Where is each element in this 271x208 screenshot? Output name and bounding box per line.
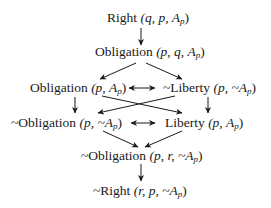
node-relation: ~Liberty [163,80,210,95]
node-obligation-pa: Obligation (p, Ap) [30,80,126,99]
node-args: (p, A [91,80,117,95]
node-not-obligation-pa: ~Obligation (p, ~Ap) [11,115,122,134]
arrow-obligation-to-obligation-pa [100,63,136,79]
node-close: ) [198,148,203,163]
node-close: ) [200,44,205,59]
node-close: ) [117,115,122,130]
node-args: (q, p, A [140,10,180,25]
node-relation: ~Obligation [11,115,76,130]
node-relation: ~Right [93,183,130,198]
node-relation: ~Obligation [81,148,146,163]
node-args: (p, r, ~A [149,148,193,163]
node-args: (p, ~A [213,80,247,95]
node-relation: Right [107,10,137,25]
arrow-obligation-to-not-liberty [146,63,182,79]
node-args: (p, q, A [156,44,196,59]
node-close: ) [184,10,189,25]
node-close: ) [239,115,244,130]
node-args: (p, A [208,115,234,130]
arrows-layer [0,0,271,208]
node-close: ) [122,80,127,95]
node-args: (r, p, ~A [134,183,178,198]
node-obligation-pq: Obligation (p, q, Ap) [95,44,205,63]
node-close: ) [182,183,187,198]
node-relation: Obligation [95,44,153,59]
node-not-liberty: ~Liberty (p, ~Ap) [163,80,256,99]
node-liberty: Liberty (p, Ap) [165,115,243,134]
node-relation: Obligation [30,80,88,95]
node-relation: Liberty [165,115,205,130]
node-right: Right (q, p, Ap) [107,10,189,29]
diagram-canvas: Right (q, p, Ap) Obligation (p, q, Ap) O… [0,0,271,208]
node-not-obligation-pr: ~Obligation (p, r, ~Ap) [81,148,203,167]
node-close: ) [251,80,256,95]
node-not-right: ~Right (r, p, ~Ap) [93,183,187,202]
node-args: (p, ~A [79,115,113,130]
